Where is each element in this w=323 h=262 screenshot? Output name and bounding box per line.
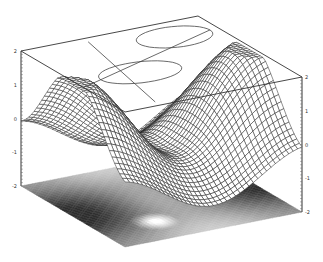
svg-text:0: 0	[14, 116, 17, 122]
svg-text:-2: -2	[12, 183, 17, 189]
svg-text:0: 0	[305, 142, 308, 148]
svg-text:1: 1	[14, 82, 17, 88]
svg-text:-1: -1	[12, 149, 17, 155]
svg-text:2: 2	[305, 74, 308, 80]
svg-text:-1: -1	[305, 175, 310, 181]
svg-text:2: 2	[14, 48, 17, 54]
svg-text:1: 1	[305, 108, 308, 114]
surface-plot: 221100-1-1-2-2	[0, 0, 323, 262]
svg-text:-2: -2	[305, 209, 310, 215]
